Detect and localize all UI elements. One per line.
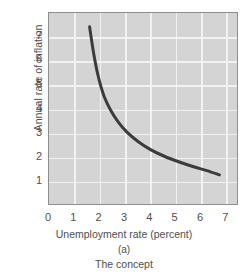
x-axis-tick-label: 4 [140,211,158,223]
panel-identifier: (a) [0,244,248,255]
y-axis-tick-label: 7 [26,29,42,41]
x-axis-tick-label: 2 [90,211,108,223]
x-axis-tick-label: 7 [216,211,234,223]
y-axis-tick-label: 2 [26,150,42,162]
plot-area [48,12,238,205]
x-axis-tick-label: 3 [115,211,133,223]
x-axis-tick-label: 5 [166,211,184,223]
x-axis-tick-label: 6 [191,211,209,223]
panel-caption: The concept [0,258,248,270]
y-axis-tick-label: 6 [26,53,42,65]
phillips-curve-line [49,13,237,204]
y-axis-tick-label: 3 [26,126,42,138]
x-axis-title: Unemployment rate (percent) [0,228,248,240]
y-axis-tick-label: 1 [26,174,42,186]
phillips-curve-figure: Annual rate of inflation (percent) 12345… [0,0,248,274]
y-axis-tick-label: 4 [26,102,42,114]
x-axis-tick-label: 0 [39,211,57,223]
y-axis-tick-label: 5 [26,77,42,89]
x-axis-tick-label: 1 [64,211,82,223]
